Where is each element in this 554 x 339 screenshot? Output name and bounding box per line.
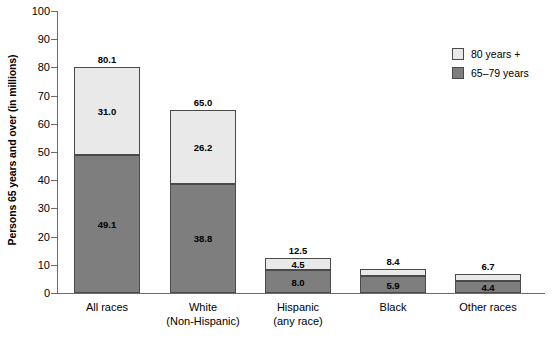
y-axis-tick-label: 90 [6, 33, 50, 45]
bar-group[interactable]: 5.98.4 [360, 269, 426, 293]
y-axis-tick-label: 10 [6, 259, 50, 271]
y-axis-tick-label: 30 [6, 202, 50, 214]
legend-label: 65–79 years [471, 67, 529, 79]
bar-value-label-65-79: 5.9 [360, 279, 426, 290]
bar-group[interactable]: 38.826.265.0 [170, 110, 236, 293]
y-axis-tick-label: 20 [6, 231, 50, 243]
bar-segment-80-plus[interactable] [360, 269, 426, 276]
y-axis-tick-label: 70 [6, 90, 50, 102]
x-axis-label-line: (any race) [243, 315, 353, 329]
y-axis-tick-label: 60 [6, 118, 50, 130]
y-axis-tick [51, 237, 58, 238]
x-axis-label: All races [52, 301, 162, 315]
bar-total-label: 6.7 [455, 261, 521, 272]
x-axis-label-line: White [148, 301, 258, 315]
bar-value-label-65-79: 38.8 [170, 233, 236, 244]
bar-value-label-80-plus: 4.5 [265, 259, 331, 270]
x-axis-label-line: Hispanic [243, 301, 353, 315]
bar-segment-80-plus[interactable] [455, 274, 521, 280]
bar-total-label: 80.1 [74, 54, 140, 65]
x-axis-label: Black [338, 301, 448, 315]
y-axis-tick [51, 180, 58, 181]
y-axis-tick-label: 100 [6, 5, 50, 17]
bar-group[interactable]: 4.46.7 [455, 274, 521, 293]
y-axis-tick-label: 80 [6, 61, 50, 73]
x-axis-label-line: (Non-Hispanic) [148, 315, 258, 329]
y-axis-tick [51, 39, 58, 40]
x-axis-label: White(Non-Hispanic) [148, 301, 258, 328]
chart-legend: 80 years +65–79 years [452, 44, 529, 82]
x-axis-label: Hispanic(any race) [243, 301, 353, 328]
legend-label: 80 years + [471, 48, 520, 60]
bar-group[interactable]: 8.04.512.5 [265, 258, 331, 293]
x-axis-line [57, 293, 545, 294]
y-axis-tick [51, 124, 58, 125]
y-axis-tick-label: 0 [6, 287, 50, 299]
bar-total-label: 65.0 [170, 97, 236, 108]
bar-total-label: 12.5 [265, 245, 331, 256]
bar-value-label-65-79: 8.0 [265, 276, 331, 287]
legend-item[interactable]: 80 years + [452, 44, 529, 63]
y-axis-tick [51, 265, 58, 266]
y-axis-tick-labels: 0102030405060708090100 [0, 11, 50, 293]
stacked-bar-chart: Persons 65 years and over (in millions) … [0, 0, 554, 339]
y-axis-tick [51, 152, 58, 153]
x-axis-label-line: Other races [433, 301, 543, 315]
legend-item[interactable]: 65–79 years [452, 63, 529, 82]
x-axis-label-line: Black [338, 301, 448, 315]
bar-value-label-80-plus: 26.2 [170, 141, 236, 152]
y-axis-tick [51, 96, 58, 97]
y-axis-tick [51, 67, 58, 68]
y-axis-tick-label: 40 [6, 174, 50, 186]
bar-value-label-65-79: 4.4 [455, 281, 521, 292]
x-axis-label: Other races [433, 301, 543, 315]
bar-value-label-80-plus: 31.0 [74, 105, 140, 116]
bar-group[interactable]: 49.131.080.1 [74, 67, 140, 293]
bar-value-label-65-79: 49.1 [74, 218, 140, 229]
y-axis-tick [51, 293, 58, 294]
x-axis-label-line: All races [52, 301, 162, 315]
y-axis-tick [51, 208, 58, 209]
legend-swatch-icon [452, 67, 464, 79]
y-axis-tick-label: 50 [6, 146, 50, 158]
y-axis-tick [51, 11, 58, 12]
bar-total-label: 8.4 [360, 256, 426, 267]
legend-swatch-icon [452, 48, 464, 60]
